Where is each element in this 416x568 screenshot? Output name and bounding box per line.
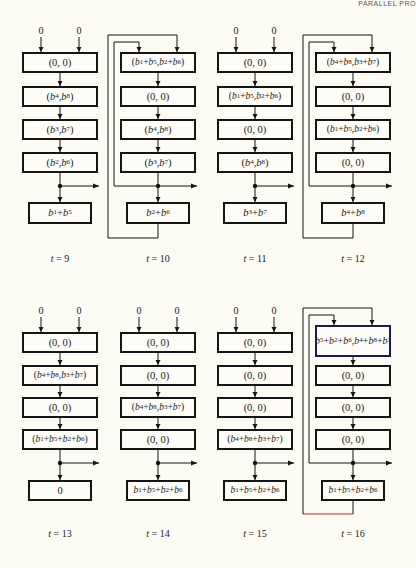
- cell-2: (b4, b8): [22, 86, 98, 107]
- cell-3: (b4, b8): [120, 119, 196, 140]
- cell-3: (0, 0): [315, 397, 391, 418]
- output-cell: b1+b5+b2+b6: [223, 480, 287, 501]
- cell-3: (0, 0): [217, 397, 293, 418]
- cell-2: (0, 0): [315, 86, 391, 107]
- output-cell: 0: [28, 480, 92, 501]
- time-step-label: t = 15: [225, 528, 285, 539]
- cell-1: (0, 0): [217, 332, 293, 353]
- input-zero-label: 0: [36, 25, 46, 36]
- time-step-label: t = 10: [128, 253, 188, 264]
- input-zero-label: 0: [36, 305, 46, 316]
- cell-1: (b4 + b8, b3 + b7): [315, 52, 391, 73]
- input-zero-label: 0: [74, 25, 84, 36]
- output-cell: b1 +b5 +b2+b6: [321, 480, 385, 501]
- cell-2: (b4 + b8, b3 + b7): [22, 365, 98, 386]
- cell-4: (b4, b8): [217, 152, 293, 173]
- input-zero-label: 0: [231, 305, 241, 316]
- cell-2: (0, 0): [217, 365, 293, 386]
- cell-4: (b4 + b8 + b3 + b7): [217, 429, 293, 450]
- cell-1: (0, 0): [120, 332, 196, 353]
- output-cell: b2 + b6: [126, 202, 190, 224]
- cell-3: (0, 0): [22, 397, 98, 418]
- output-cell: b1+b5+b2+b6: [126, 480, 190, 501]
- cell-2: (0, 0): [120, 365, 196, 386]
- cell-4: (b2, b6): [22, 152, 98, 173]
- time-step-label: t = 12: [323, 253, 383, 264]
- cell-4: (0, 0): [315, 152, 391, 173]
- cell-4: (b3, b7): [120, 152, 196, 173]
- cell-4: (b1 + b5 + b2 + b6): [22, 429, 98, 450]
- output-cell: b4 + b8: [321, 202, 385, 224]
- time-step-label: t = 13: [30, 528, 90, 539]
- output-cell: b1 + b5: [28, 202, 92, 224]
- input-zero-label: 0: [231, 25, 241, 36]
- cell-4: (0, 0): [315, 429, 391, 450]
- cell-1: (b1 + b5, b2 + b6): [120, 52, 196, 73]
- input-zero-label: 0: [269, 25, 279, 36]
- output-cell: b3 + b7: [223, 202, 287, 224]
- input-zero-label: 0: [172, 305, 182, 316]
- cell-1: (b1 + b5 + b2 + b6,b4 + b8 + b3 + b7): [315, 325, 391, 357]
- cell-1: (0, 0): [217, 52, 293, 73]
- cell-4: (0, 0): [120, 429, 196, 450]
- time-step-label: t = 11: [225, 253, 285, 264]
- cell-3: (b4 + b8, b3 + b7): [120, 397, 196, 418]
- input-zero-label: 0: [74, 305, 84, 316]
- cell-2: (b1 + b5, b2 + b6): [217, 86, 293, 107]
- cell-3: (b3, b7): [22, 119, 98, 140]
- input-zero-label: 0: [269, 305, 279, 316]
- time-step-label: t = 9: [30, 253, 90, 264]
- cell-1: (0, 0): [22, 52, 98, 73]
- time-step-label: t = 16: [323, 528, 383, 539]
- input-zero-label: 0: [134, 305, 144, 316]
- time-step-label: t = 14: [128, 528, 188, 539]
- cell-2: (0, 0): [120, 86, 196, 107]
- cell-3: (b1 + b5, b2 + b6): [315, 119, 391, 140]
- cell-3: (0, 0): [217, 119, 293, 140]
- cell-1: (0, 0): [22, 332, 98, 353]
- cell-2: (0, 0): [315, 365, 391, 386]
